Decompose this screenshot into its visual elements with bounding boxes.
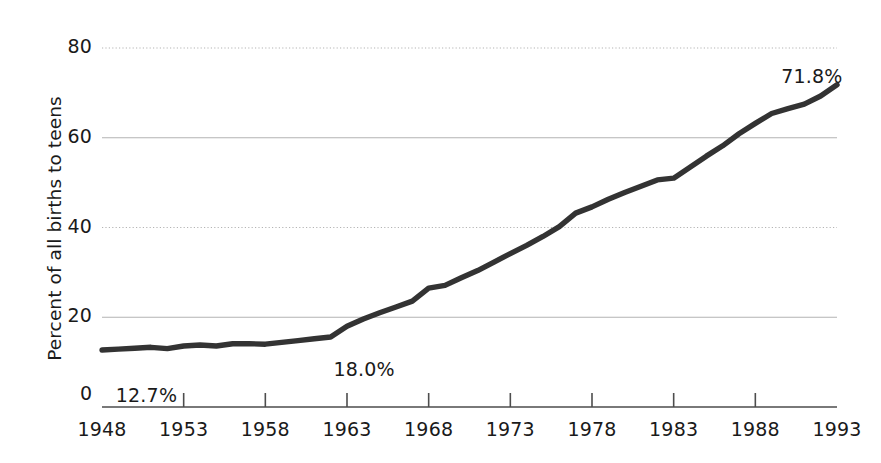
y-tick-label: 80 bbox=[46, 35, 92, 57]
annotation-start-value: 12.7% bbox=[116, 384, 177, 406]
x-tick-label: 1953 bbox=[144, 418, 224, 440]
x-tick-label: 1958 bbox=[225, 418, 305, 440]
x-tick-label: 1948 bbox=[62, 418, 142, 440]
y-tick-label: 60 bbox=[46, 125, 92, 147]
x-tick-label: 1973 bbox=[470, 418, 550, 440]
chart-figure: Percent of all births to teens 20406080 … bbox=[0, 0, 881, 463]
x-tick-label: 1963 bbox=[307, 418, 387, 440]
annotation-mid-value: 18.0% bbox=[333, 358, 394, 380]
x-tick-label: 1978 bbox=[552, 418, 632, 440]
y-tick-label-zero: 0 bbox=[62, 382, 92, 404]
y-tick-label: 20 bbox=[46, 304, 92, 326]
data-series-line bbox=[102, 85, 837, 350]
annotation-end-value: 71.8% bbox=[781, 65, 842, 87]
x-tick-label: 1983 bbox=[634, 418, 714, 440]
y-tick-label: 40 bbox=[46, 215, 92, 237]
x-tick-label: 1968 bbox=[389, 418, 469, 440]
x-tick-label: 1988 bbox=[715, 418, 795, 440]
x-tick-marks-group bbox=[184, 393, 756, 407]
x-tick-label: 1993 bbox=[797, 418, 877, 440]
